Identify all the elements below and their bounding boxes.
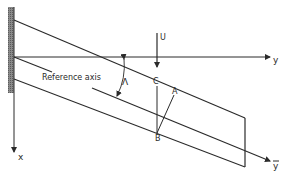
wall-root bbox=[8, 7, 14, 93]
point-a-label: A bbox=[172, 88, 177, 96]
reference-axis-label: Reference axis bbox=[42, 74, 101, 82]
y-axis-label: y bbox=[273, 56, 278, 65]
reference-axis-line-b bbox=[92, 88, 270, 161]
segment-ba bbox=[157, 95, 174, 133]
swept-wing-diagram bbox=[0, 0, 290, 184]
point-b-label: B bbox=[155, 135, 161, 143]
y-bar-axis-label: y bbox=[273, 162, 278, 171]
trailing-edge bbox=[14, 79, 245, 167]
reference-axis-line-a bbox=[14, 57, 52, 72]
point-c-label: C bbox=[153, 78, 159, 86]
sweep-angle-label: Λ bbox=[122, 78, 128, 87]
freestream-label: U bbox=[160, 34, 166, 42]
x-axis-label: x bbox=[18, 153, 23, 162]
